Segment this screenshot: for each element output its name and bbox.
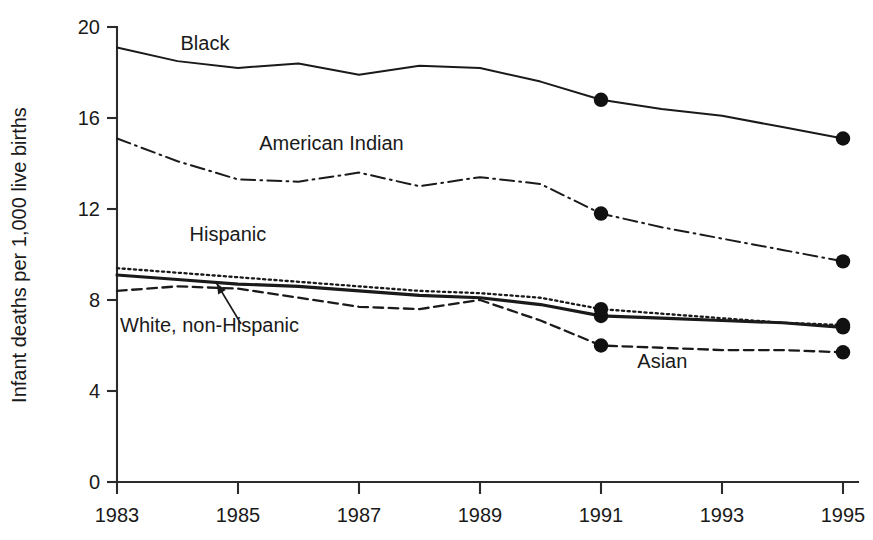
series-marker-4 xyxy=(594,338,608,352)
y-tick-label: 8 xyxy=(89,289,100,311)
y-tick-label: 4 xyxy=(89,380,100,402)
series-label-3: White, non-Hispanic xyxy=(120,314,299,336)
series-marker-1 xyxy=(594,206,608,220)
y-axis-ticks: 048121620 xyxy=(78,16,117,493)
x-axis: 1983198519871989199119931995 xyxy=(95,482,866,526)
series-label-1: American Indian xyxy=(259,132,404,154)
series-lines xyxy=(117,47,843,352)
x-tick-label: 1995 xyxy=(821,504,866,526)
series-marker-3 xyxy=(594,309,608,323)
x-tick-label: 1983 xyxy=(95,504,140,526)
x-tick-label: 1993 xyxy=(700,504,745,526)
series-label-4: Asian xyxy=(637,350,687,372)
y-tick-label: 0 xyxy=(89,471,100,493)
y-axis-title: Infant deaths per 1,000 live births xyxy=(8,107,30,403)
y-tick-label: 12 xyxy=(78,198,100,220)
chart-container: 048121620 1983198519871989199119931995 I… xyxy=(0,0,873,540)
series-marker-0 xyxy=(836,131,850,145)
series-marker-1 xyxy=(836,254,850,268)
x-axis-ticks: 1983198519871989199119931995 xyxy=(95,482,866,526)
series-marker-3 xyxy=(836,320,850,334)
x-tick-label: 1991 xyxy=(579,504,624,526)
series-marker-0 xyxy=(594,93,608,107)
y-tick-label: 20 xyxy=(78,16,100,38)
annotation-arrowhead-icon xyxy=(217,284,226,295)
x-tick-label: 1985 xyxy=(216,504,261,526)
x-tick-label: 1987 xyxy=(337,504,382,526)
x-tick-label: 1989 xyxy=(458,504,503,526)
y-axis: 048121620 xyxy=(78,16,117,493)
series-label-2: Hispanic xyxy=(190,223,267,245)
infant-mortality-line-chart: 048121620 1983198519871989199119931995 I… xyxy=(0,0,873,540)
series-line-0 xyxy=(117,47,843,138)
series-label-0: Black xyxy=(181,32,231,54)
y-tick-label: 16 xyxy=(78,107,100,129)
series-marker-4 xyxy=(836,345,850,359)
